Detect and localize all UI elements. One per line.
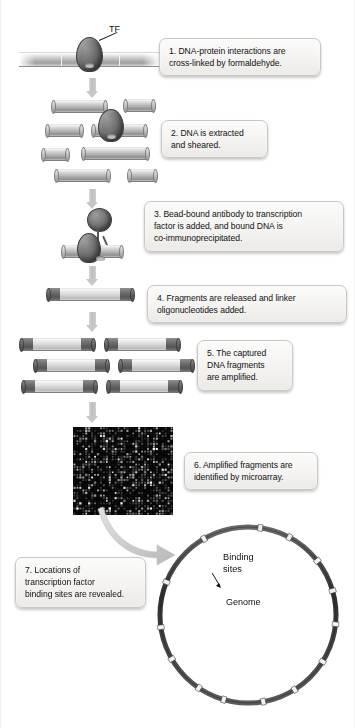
flow-arrow-2-to-3 [86, 189, 99, 209]
step-1-line-1: 1. DNA-protein interactions are [169, 45, 312, 57]
binding-site-marker [157, 625, 164, 630]
step-3-line-1: 3. Bead-bound antibody to transcription [154, 208, 335, 220]
step-7-callout: 7. Locations of transcription factor bin… [15, 557, 146, 608]
binding-site-marker [258, 524, 263, 531]
amplified-fragment [120, 359, 192, 372]
flow-arrow-4-to-5 [86, 312, 99, 332]
dna-fragment [83, 147, 147, 160]
step-6-line-1: 6. Amplified fragments are [194, 459, 309, 471]
step-5-line-1: 5. The captured [207, 347, 284, 359]
step-7-line-1: 7. Locations of [25, 564, 137, 576]
step-5-callout: 5. The captured DNA fragments are amplif… [197, 340, 293, 391]
strand-fade-right [143, 53, 159, 66]
dna-fragment [125, 99, 153, 112]
amplified-fragment [21, 338, 93, 351]
step-2-callout: 2. DNA is extracted and sheared. [161, 120, 268, 158]
flow-arrow-3-to-4 [86, 266, 99, 286]
step-2-line-2: and sheared. [171, 139, 259, 151]
amplified-fragment [35, 359, 107, 372]
binding-sites-label: Binding sites [223, 552, 254, 576]
step-3-line-3: co-immunoprecipitated. [154, 232, 335, 244]
diagram-canvas: TF 1. DNA-protein interactions are cross… [0, 0, 355, 728]
microarray-image [73, 427, 173, 515]
step-3-line-2: factor is added, and bound DNA is [154, 220, 335, 232]
linker-ligated-fragment [48, 288, 132, 301]
binding-site-marker [332, 622, 339, 627]
dna-nick [119, 53, 120, 66]
step-2-line-1: 2. DNA is extracted [171, 127, 259, 139]
strand-fade-left [19, 53, 35, 66]
step-1-line-2: cross-linked by formaldehyde. [169, 57, 312, 69]
dna-fragment [53, 100, 105, 113]
step-6-callout: 6. Amplified fragments are identified by… [184, 452, 318, 490]
binding-site-marker [260, 698, 266, 705]
step-7-line-3: binding sites are revealed. [25, 588, 137, 600]
dna-fragment [47, 124, 81, 137]
amplified-fragment [106, 338, 178, 351]
protein-dna-contact [107, 134, 116, 139]
step-3-callout: 3. Bead-bound antibody to transcription … [144, 201, 344, 252]
step-5-line-2: DNA fragments [207, 359, 284, 371]
dna-fragment [129, 169, 155, 182]
dna-nick [61, 53, 62, 66]
protein-dna-contact [96, 256, 105, 261]
step-7-line-2: transcription factor [25, 576, 137, 588]
amplified-fragment [108, 380, 180, 393]
protein-dna-contact [85, 63, 94, 68]
step-5-line-3: are amplified. [207, 371, 284, 383]
flow-arrow-5-to-6 [86, 402, 99, 424]
genome-label: Genome [226, 597, 261, 607]
step-6-line-2: identified by microarray. [194, 471, 309, 483]
step-4-line-1: 4. Fragments are released and linker [157, 292, 338, 304]
amplified-fragment [23, 380, 95, 393]
genome-circle [146, 520, 351, 710]
antibody-bead [87, 208, 112, 232]
binding-sites-line-1: Binding [223, 552, 254, 564]
dna-fragment [56, 169, 108, 182]
dna-fragment [43, 148, 67, 161]
step-1-callout: 1. DNA-protein interactions are cross-li… [159, 38, 321, 76]
binding-sites-line-2: sites [223, 564, 254, 576]
tf-label: TF [109, 24, 120, 34]
step-4-callout: 4. Fragments are released and linker oli… [147, 285, 347, 323]
flow-arrow-1-to-2 [86, 78, 99, 98]
step-4-line-2: oligonucleotides added. [157, 304, 338, 316]
